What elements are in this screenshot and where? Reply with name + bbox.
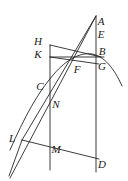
point-label-G: G <box>98 61 106 72</box>
point-label-M: M <box>51 144 60 155</box>
point-label-D: D <box>98 159 106 170</box>
point-label-B: B <box>99 46 106 57</box>
geometry-figure: A E B G H K C F N L M D <box>0 0 128 181</box>
point-label-E: E <box>98 29 105 40</box>
point-label-L: L <box>9 133 15 144</box>
point-label-K: K <box>34 49 41 60</box>
point-label-C: C <box>36 81 43 92</box>
geometry-canvas <box>0 0 128 181</box>
point-label-A: A <box>98 16 105 27</box>
point-label-N: N <box>52 99 59 110</box>
point-label-F: F <box>74 64 81 75</box>
point-label-H: H <box>34 36 42 47</box>
oblique-lower-tail <box>9 140 22 176</box>
